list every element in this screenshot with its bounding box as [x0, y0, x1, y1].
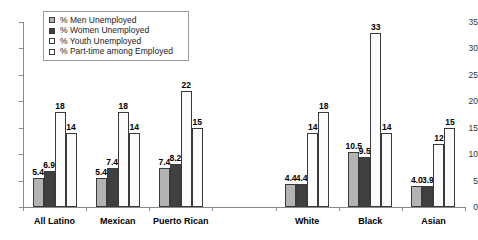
bar-value-label: 15: [187, 118, 208, 127]
bar[interactable]: [192, 128, 203, 207]
bar-value-label: 22: [176, 81, 197, 90]
bar[interactable]: [444, 128, 455, 207]
legend-item-3[interactable]: % Part-time among Employed: [49, 47, 183, 58]
bar-value-label: 18: [313, 102, 334, 111]
x-tick-1: [86, 207, 87, 211]
bar[interactable]: [411, 186, 422, 207]
bar[interactable]: [381, 133, 392, 207]
legend-swatch-men-unemployed: [49, 17, 55, 23]
x-tick-6: [402, 207, 403, 211]
bar[interactable]: [96, 178, 107, 207]
legend-item-1[interactable]: % Women Unemployed: [49, 26, 183, 37]
bar-group-black: 10.59.53314: [348, 22, 392, 207]
category-label-black: Black: [339, 216, 402, 226]
bar[interactable]: [159, 168, 170, 207]
x-tick-3: [212, 207, 213, 211]
bar[interactable]: [307, 133, 318, 207]
bar-value-label: 14: [61, 123, 82, 132]
category-label-white: White: [276, 216, 339, 226]
bar-value-label: 14: [376, 123, 397, 132]
bar-value-label: 14: [124, 123, 145, 132]
bar[interactable]: [33, 178, 44, 207]
x-tick-end: [465, 207, 466, 211]
x-tick-2: [149, 207, 150, 211]
bar-value-label: 18: [113, 102, 134, 111]
x-tick-5: [339, 207, 340, 211]
bar[interactable]: [181, 91, 192, 207]
category-label-mexican: Mexican: [86, 216, 149, 226]
bar[interactable]: [107, 168, 118, 207]
bar[interactable]: [285, 184, 296, 207]
bar[interactable]: [129, 133, 140, 207]
legend-item-2[interactable]: % Youth Unemployed: [49, 36, 183, 47]
bar-group-asian: 4.03.91215: [411, 22, 455, 207]
bar-value-label: 18: [50, 102, 71, 111]
bar[interactable]: [359, 157, 370, 207]
bar[interactable]: [348, 152, 359, 208]
x-tick-4: [276, 207, 277, 211]
category-label-asian: Asian: [402, 216, 465, 226]
chart-legend: % Men Unemployed % Women Unemployed % Yo…: [43, 11, 189, 61]
bar[interactable]: [422, 186, 433, 207]
legend-swatch-parttime-employed: [49, 49, 55, 55]
category-label-puerto-rican: Puerto Rican: [149, 216, 212, 226]
legend-swatch-youth-unemployed: [49, 38, 55, 44]
legend-item-0[interactable]: % Men Unemployed: [49, 15, 183, 26]
x-axis-line: [23, 207, 465, 208]
bar[interactable]: [296, 184, 307, 207]
legend-label-youth-unemployed: % Youth Unemployed: [60, 37, 141, 46]
category-label-all-latino: All Latino: [23, 216, 86, 226]
bar[interactable]: [66, 133, 77, 207]
bar[interactable]: [318, 112, 329, 207]
bar-value-label: 15: [439, 118, 460, 127]
bar-group-empty: [222, 22, 266, 207]
legend-swatch-women-unemployed: [49, 28, 55, 34]
bar-chart: 05101520253035 5.46.918145.47.418147.48.…: [0, 0, 478, 240]
legend-label-men-unemployed: % Men Unemployed: [60, 16, 137, 25]
x-tick-0: [23, 207, 24, 211]
legend-label-parttime-employed: % Part-time among Employed: [60, 47, 173, 56]
bar[interactable]: [370, 33, 381, 207]
bar-value-label: 33: [365, 23, 386, 32]
bar[interactable]: [170, 164, 181, 207]
bar[interactable]: [44, 171, 55, 207]
bar-group-white: 4.44.41418: [285, 22, 329, 207]
legend-label-women-unemployed: % Women Unemployed: [60, 26, 149, 35]
bar[interactable]: [433, 144, 444, 207]
